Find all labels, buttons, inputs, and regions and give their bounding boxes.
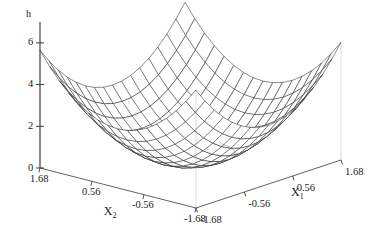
x2-axis-label: X2 bbox=[104, 205, 117, 220]
x2-tick-label-1-68: 1.68 bbox=[30, 174, 48, 185]
h-tick-label-4: 4 bbox=[28, 79, 33, 90]
x1-tick-label-neg-1-68: -1.68 bbox=[200, 215, 222, 226]
h-tick-label-6: 6 bbox=[28, 37, 33, 48]
h-axis-label: h bbox=[26, 9, 31, 19]
surface-plot-figure: h 6 4 2 0 1.68 0.56 -0.56 -1.68 X2 -1.68… bbox=[0, 0, 382, 248]
x1-axis-label: X1 bbox=[291, 186, 304, 201]
h-tick-label-2: 2 bbox=[28, 121, 33, 132]
plot-canvas bbox=[0, 0, 382, 248]
x1-axis-label-text: X bbox=[291, 185, 300, 199]
x1-tick-label-neg-0-56: -0.56 bbox=[248, 199, 270, 210]
h-tick-label-0: 0 bbox=[28, 163, 33, 174]
x2-axis-label-sub: 2 bbox=[112, 211, 116, 220]
x1-tick-label-1-68: 1.68 bbox=[345, 167, 363, 178]
x1-axis-label-sub: 1 bbox=[300, 193, 304, 202]
x2-tick-label-neg-0-56: -0.56 bbox=[132, 200, 154, 211]
x2-tick-label-0-56: 0.56 bbox=[82, 187, 100, 198]
